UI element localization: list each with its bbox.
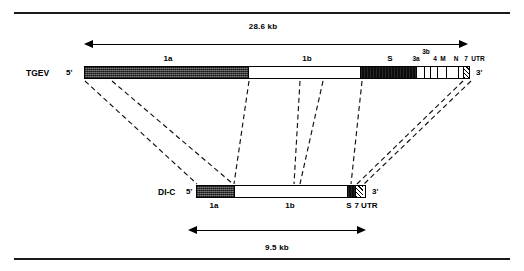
- tgev-segment-label-3b: 3b: [422, 49, 430, 56]
- di-scale-shaft: [194, 230, 360, 231]
- tgev-segment-1b: [248, 67, 359, 78]
- tgev-segment-3a: [416, 67, 424, 78]
- tgev-genome-bar: [84, 66, 470, 79]
- connector-1b-left: [294, 81, 300, 184]
- connector-1b-right: [300, 81, 323, 184]
- tgev-segment-label-1a: 1a: [164, 55, 173, 63]
- tgev-segment-1a: [85, 67, 248, 78]
- construct-label-tgev: TGEV: [26, 69, 49, 78]
- tgev-segment-label-M: M: [440, 56, 445, 63]
- genome-scale-label: 28.6 kb: [228, 22, 298, 31]
- di-c-genome-bar: [196, 185, 366, 198]
- dic-segment-label-1a: 1a: [210, 202, 219, 210]
- tgev-segment-label-1b: 1b: [302, 55, 311, 63]
- connector-1a-1b-junction: [234, 81, 249, 184]
- di-scale-arrow: [188, 225, 366, 236]
- dic-segment-1a: [197, 186, 234, 197]
- figure-top-rule: [14, 12, 510, 14]
- tgev-five-prime-label: 5': [66, 69, 72, 77]
- tgev-three-prime-label: 3': [476, 69, 482, 77]
- genome-scale-shaft: [90, 44, 462, 45]
- tgev-segment-S: [360, 67, 417, 78]
- tgev-segment-UTR: [463, 67, 469, 78]
- tgev-segment-N: [446, 67, 458, 78]
- figure-bottom-rule: [14, 258, 510, 260]
- dic-three-prime-label: 3': [372, 188, 378, 196]
- dic-segment-label-7utr: 7 UTR: [354, 202, 377, 210]
- dic-segment-label-1b: 1b: [285, 202, 294, 210]
- connector-1a-start: [85, 81, 197, 184]
- genome-scale-arrowhead-right: [459, 40, 468, 48]
- tgev-segment-label-4: 4: [433, 56, 437, 63]
- connector-1b-s-junction: [351, 81, 362, 184]
- dic-five-prime-label: 5': [186, 188, 192, 196]
- construct-label-di-c: DI-C: [158, 188, 175, 197]
- tgev-segment-label-S: S: [387, 55, 392, 63]
- tgev-segment-M: [437, 67, 446, 78]
- dic-segment-S: [347, 186, 355, 197]
- dic-segment-1b: [234, 186, 347, 197]
- connector-7-utr-a: [357, 81, 463, 184]
- connector-7-utr-b: [364, 81, 471, 184]
- tgev-segment-label-UTR: UTR: [471, 56, 484, 63]
- di-scale-label: 9.5 kb: [242, 243, 312, 252]
- tgev-segment-label-N: N: [454, 56, 459, 63]
- dic-segment-7UTR: [355, 186, 363, 197]
- dic-segment-label-S: S: [346, 202, 351, 210]
- di-scale-arrowhead-right: [357, 226, 366, 234]
- tgev-segment-label-3a: 3a: [412, 56, 419, 63]
- genome-scale-arrow: [84, 39, 468, 50]
- genome-diagram-figure: 28.6 kb TGEV 5' 3' 1a 1b S 3a 3b 4 M N 7…: [0, 0, 524, 271]
- tgev-segment-label-7: 7: [464, 56, 468, 63]
- tgev-segment-4: [430, 67, 437, 78]
- connector-1a-end: [112, 81, 233, 184]
